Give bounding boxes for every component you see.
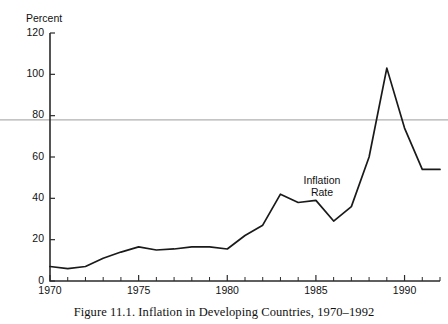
axis-spine <box>50 33 440 281</box>
x-tick-label: 1980 <box>216 284 240 296</box>
series-annotation-line1: Inflation <box>304 174 341 186</box>
x-axis-tick-labels: 19701975198019851990 <box>38 284 416 296</box>
series-path-group <box>50 68 440 268</box>
x-tick-label: 1975 <box>127 284 151 296</box>
axes-group <box>50 33 440 281</box>
y-axis-tick-labels: 020406080100120 <box>26 26 44 286</box>
x-axis-ticks <box>50 275 440 281</box>
y-tick-label: 40 <box>32 191 44 203</box>
inflation-line-chart: 020406080100120 19701975198019851990 Per… <box>0 0 448 324</box>
x-tick-label: 1985 <box>304 284 328 296</box>
y-tick-label: 20 <box>32 232 44 244</box>
series-line-inflation-rate <box>50 68 440 268</box>
x-tick-label: 1970 <box>38 284 62 296</box>
figure-caption: Figure 11.1. Inflation in Developing Cou… <box>0 305 448 320</box>
y-tick-label: 120 <box>26 26 44 38</box>
y-tick-label: 80 <box>32 108 44 120</box>
y-tick-label: 100 <box>26 67 44 79</box>
y-tick-label: 60 <box>32 150 44 162</box>
series-annotation-line2: Rate <box>311 186 333 198</box>
figure-container: 020406080100120 19701975198019851990 Per… <box>0 0 448 324</box>
y-axis-title: Percent <box>26 12 62 24</box>
x-tick-label: 1990 <box>393 284 417 296</box>
